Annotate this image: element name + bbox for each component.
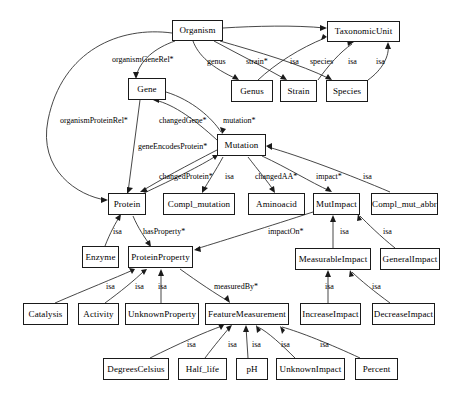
edge-label-isa-di: isa: [372, 283, 381, 291]
node-ph[interactable]: pH: [236, 358, 268, 380]
node-enzyme[interactable]: Enzyme: [82, 246, 119, 268]
node-genus[interactable]: Genus: [231, 80, 273, 102]
edge-label-organismproteinrel: organismProteinRel*: [60, 117, 128, 125]
ontology-diagram: Organism TaxonomicUnit Gene Genus Strain…: [0, 0, 468, 398]
node-layer: Organism TaxonomicUnit Gene Genus Strain…: [0, 0, 468, 398]
edge-label-mutation: mutation*: [223, 117, 255, 125]
edge-label-isa-taxon-1: isa: [290, 58, 299, 66]
node-species[interactable]: Species: [326, 80, 368, 102]
edge-label-isa-mi: isa: [340, 228, 349, 236]
node-compl-mut-abbr[interactable]: Compl_mut_abbr: [371, 193, 438, 215]
edge-label-isa-fm-2: isa: [228, 341, 237, 349]
edge-label-genus: genus: [207, 58, 226, 66]
edge-label-measuredby: measuredBy*: [214, 283, 258, 291]
edge-label-isa-ii: isa: [325, 283, 334, 291]
node-mutation[interactable]: Mutation: [217, 134, 266, 156]
node-gene[interactable]: Gene: [128, 78, 166, 100]
edge-label-impacton: impactOn*: [268, 228, 304, 236]
node-organism[interactable]: Organism: [172, 20, 223, 41]
edge-label-organismgenerel: organismGeneRel*: [112, 56, 174, 64]
node-unknownimpact[interactable]: UnknownImpact: [276, 358, 345, 380]
node-unknownproperty[interactable]: UnknownProperty: [125, 303, 199, 325]
node-measurableimpact[interactable]: MeasurableImpact: [295, 248, 371, 270]
node-proteinproperty[interactable]: ProteinProperty: [128, 246, 193, 268]
edge-label-isa-pp-2: isa: [135, 283, 144, 291]
edge-label-isa-pp-3: isa: [158, 283, 167, 291]
node-generalimpact[interactable]: GeneralImpact: [380, 248, 440, 270]
edge-label-isa-fm-3: isa: [252, 341, 261, 349]
edge-label-changedgene: changedGene*: [159, 117, 207, 125]
edge-label-isa-pp-1: isa: [106, 283, 115, 291]
edge-label-changedprotein: changedProtein*: [159, 173, 213, 181]
edge-label-isa-enzyme: isa: [113, 228, 122, 236]
edge-label-isa-mut-2: isa: [363, 173, 372, 181]
edge-label-species: species: [310, 58, 333, 66]
edge-label-strain: strain*: [246, 58, 268, 66]
node-featuremeasurement[interactable]: FeatureMeasurement: [205, 303, 289, 325]
node-decreaseimpact[interactable]: DecreaseImpact: [372, 303, 435, 325]
edge-label-isa-mut-1: isa: [225, 173, 234, 181]
node-increaseimpact[interactable]: IncreaseImpact: [300, 303, 361, 325]
edge-label-isa-taxon-2: isa: [348, 58, 357, 66]
node-half-life[interactable]: Half_life: [178, 358, 227, 380]
node-activity[interactable]: Activity: [78, 303, 119, 325]
node-catalysis[interactable]: Catalysis: [23, 303, 68, 325]
node-strain[interactable]: Strain: [280, 80, 317, 102]
node-aminoacid[interactable]: Aminoacid: [248, 193, 305, 215]
edge-label-hasproperty: hasProperty*: [143, 228, 185, 236]
edge-label-geneencodesprotein: geneEncodesProtein*: [138, 143, 207, 151]
edge-label-isa-fm-1: isa: [187, 341, 196, 349]
edge-label-changedaa: changedAA*: [255, 173, 297, 181]
node-compl-mutation[interactable]: Compl_mutation: [163, 193, 235, 215]
node-taxonomicunit[interactable]: TaxonomicUnit: [327, 21, 400, 42]
edge-label-impact: impact*: [316, 173, 342, 181]
edge-label-isa-fm-4: isa: [281, 341, 290, 349]
edge-label-isa-taxon-3: isa: [376, 58, 385, 66]
node-mutimpact[interactable]: MutImpact: [313, 193, 360, 215]
node-degreescelsius[interactable]: DegreesCelsius: [103, 358, 169, 380]
node-protein[interactable]: Protein: [108, 193, 146, 215]
edge-label-isa-fm-5: isa: [320, 341, 329, 349]
node-percent[interactable]: Percent: [355, 358, 398, 380]
edge-label-isa-gi: isa: [383, 228, 392, 236]
